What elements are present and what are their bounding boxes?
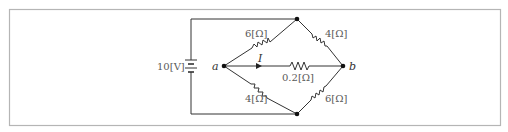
resistor-top-left-label: 6[Ω] xyxy=(245,28,268,39)
resistor-middle-label: 0.2[Ω] xyxy=(282,72,314,83)
node-top xyxy=(295,17,300,22)
resistor-top-right xyxy=(297,19,343,66)
node-a-label: a xyxy=(212,60,219,73)
node-b xyxy=(341,64,346,69)
resistor-bottom-left-label: 4[Ω] xyxy=(245,93,268,104)
wire-top-left xyxy=(191,19,297,58)
circuit-diagram: 10[V] a b I 6[Ω] 4[Ω] 4[Ω] 6[Ω] 0.2[Ω] xyxy=(0,0,508,132)
battery-icon xyxy=(185,58,197,75)
node-a xyxy=(222,64,227,69)
source-label: 10[V] xyxy=(157,61,185,72)
node-b-label: b xyxy=(349,60,356,73)
current-label: I xyxy=(257,52,263,65)
resistor-middle xyxy=(224,62,343,70)
resistor-top-right-label: 4[Ω] xyxy=(325,28,348,39)
diagram-frame xyxy=(10,10,501,126)
node-bottom xyxy=(295,112,300,117)
resistor-bottom-right-label: 6[Ω] xyxy=(325,93,348,104)
